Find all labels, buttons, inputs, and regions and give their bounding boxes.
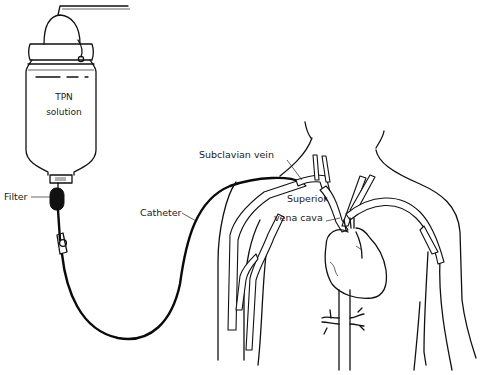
- tpn-label: TPN: [49, 93, 79, 102]
- filter: [31, 183, 64, 210]
- iv-tubing: [58, 210, 60, 240]
- subclavian-vein-label: Subclavian vein: [199, 150, 274, 160]
- solution-label: solution: [40, 108, 88, 117]
- svc-label-line1: Superior: [287, 194, 327, 204]
- heart: [325, 218, 386, 298]
- catheter-label: Catheter: [140, 208, 182, 218]
- svc-label-line2: vena cava: [274, 213, 323, 223]
- iv-hanger: [58, 6, 130, 15]
- roller-clamp: [57, 233, 67, 254]
- tpn-label-line1: TPN: [49, 93, 79, 102]
- tpn-diagram: [0, 0, 482, 375]
- tpn-label-line2: solution: [40, 108, 88, 117]
- filter-label: Filter: [4, 192, 28, 202]
